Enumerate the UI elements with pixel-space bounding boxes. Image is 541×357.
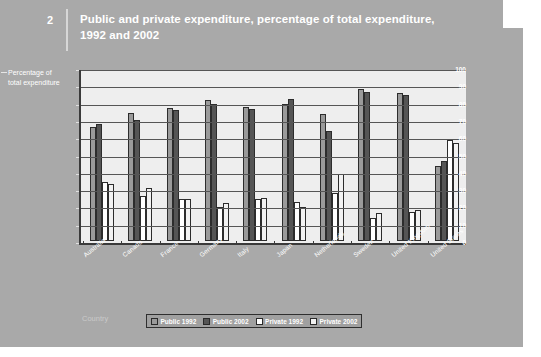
- y-axis-tick-label: 40: [453, 170, 466, 177]
- bar-group: [198, 70, 236, 241]
- bar-group: [160, 70, 198, 241]
- grid-line: [81, 87, 466, 88]
- bar: [300, 207, 306, 241]
- page-right-margin: [523, 28, 541, 357]
- legend-label: Private 2002: [320, 318, 358, 325]
- plot-canvas: [79, 70, 466, 245]
- y-axis-tick-label: 90: [453, 83, 466, 90]
- y-axis-tick-mark: [76, 139, 79, 140]
- grid-line: [81, 122, 466, 123]
- bar: [376, 213, 382, 241]
- chart-plot-area: 0102030405060708090100: [66, 70, 466, 245]
- y-axis-title-dash: [1, 72, 7, 73]
- y-axis-tick-mark: [76, 208, 79, 209]
- legend-swatch-icon: [256, 318, 263, 325]
- bar-group: [351, 70, 389, 241]
- grid-line: [81, 70, 466, 71]
- header-divider: [66, 9, 68, 51]
- legend-swatch-icon: [203, 318, 210, 325]
- grid-line: [81, 208, 466, 209]
- bar: [108, 184, 114, 241]
- y-axis-tick-mark: [76, 105, 79, 106]
- bar: [185, 199, 191, 241]
- grid-line: [81, 157, 466, 158]
- grid-line: [81, 105, 466, 106]
- bar-group: [313, 70, 351, 241]
- bar-series-container: [83, 70, 466, 241]
- y-axis-tick-mark: [76, 174, 79, 175]
- legend-label: Private 1992: [265, 318, 303, 325]
- legend-item: Private 1992: [256, 318, 303, 325]
- y-axis-tick-label: 100: [453, 66, 466, 73]
- bar-group: [83, 70, 121, 241]
- bar-group: [274, 70, 312, 241]
- y-axis-tick-label: 60: [453, 135, 466, 142]
- y-axis-tick-mark: [76, 191, 79, 192]
- grid-line: [81, 174, 466, 175]
- page-root: 2 Public and private expenditure, percen…: [0, 0, 541, 357]
- bar-group: [236, 70, 274, 241]
- bar: [261, 198, 267, 241]
- y-axis-tick-label: 30: [453, 187, 466, 194]
- y-axis-tick-mark: [76, 122, 79, 123]
- figure-number: 2: [38, 14, 62, 26]
- y-axis-tick-label: 80: [453, 101, 466, 108]
- y-axis-tick-mark: [76, 87, 79, 88]
- bar-group: [121, 70, 159, 241]
- page-bottom-margin: [0, 347, 541, 357]
- legend-item: Private 2002: [310, 318, 357, 325]
- y-axis-tick-mark: [76, 226, 79, 227]
- bar-group: [389, 70, 427, 241]
- y-axis-tick-mark: [76, 157, 79, 158]
- x-axis-category-label: Italy: [236, 245, 250, 258]
- legend-swatch-icon: [310, 318, 317, 325]
- y-axis-tick-label: 20: [453, 204, 466, 211]
- page-corner-notch: [503, 0, 541, 28]
- y-axis-tick-mark: [76, 243, 79, 244]
- legend-item: Public 2002: [203, 318, 248, 325]
- legend-item: Public 1992: [151, 318, 196, 325]
- grid-line: [81, 139, 466, 140]
- x-axis-title: Country: [82, 314, 108, 323]
- legend-label: Public 1992: [161, 318, 197, 325]
- grid-line: [81, 226, 466, 227]
- chart-legend: Public 1992Public 2002Private 1992Privat…: [146, 314, 362, 328]
- y-axis-tick-mark: [76, 70, 79, 71]
- legend-swatch-icon: [151, 318, 158, 325]
- legend-label: Public 2002: [213, 318, 249, 325]
- chart-header: 2 Public and private expenditure, percen…: [0, 0, 503, 62]
- y-axis-tick-label: 70: [453, 118, 466, 125]
- y-axis-title: Percentage of total expenditure: [8, 68, 64, 87]
- page-title: Public and private expenditure, percenta…: [80, 11, 460, 43]
- grid-line: [81, 191, 466, 192]
- x-axis-category-labels: AustraliaCanadaFranceGermanyItalyJapanNe…: [66, 245, 466, 303]
- bar: [146, 188, 152, 241]
- y-axis-tick-label: 50: [453, 153, 466, 160]
